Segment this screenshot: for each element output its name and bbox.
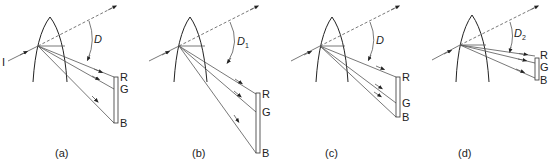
undeviated-ray	[179, 6, 258, 46]
deviation-arc	[88, 21, 92, 59]
green-ray	[320, 46, 396, 103]
incident-ray	[291, 46, 320, 61]
blue-ray	[320, 46, 396, 117]
arrow-icon	[94, 69, 101, 72]
caption: (c)	[325, 147, 338, 159]
arrow-icon	[376, 66, 383, 69]
panel-b: D1 R G B (b)	[149, 6, 271, 159]
arrow-icon	[518, 59, 525, 61]
red-ray	[320, 46, 396, 77]
arrow-icon	[374, 92, 380, 96]
green-ray	[38, 46, 114, 89]
undeviated-ray	[38, 6, 116, 46]
label-g: G	[540, 61, 549, 73]
prism	[33, 17, 67, 82]
label-r: R	[262, 88, 270, 100]
green-ray	[179, 46, 256, 112]
label-r: R	[402, 71, 410, 83]
panel-c: D R G B (c)	[291, 6, 411, 159]
panel-a: I D R G B (a)	[2, 6, 129, 159]
caption: (d)	[458, 147, 471, 159]
blue-ray	[179, 46, 256, 153]
deviation-label: D	[376, 34, 384, 46]
incident-ray	[432, 45, 460, 60]
label-g: G	[402, 97, 411, 109]
undeviated-ray	[320, 6, 399, 46]
deviation-arc	[228, 22, 235, 62]
arrow-icon	[391, 7, 398, 11]
panel-d: D2 R G B (d)	[432, 6, 549, 159]
arrow-icon	[510, 47, 511, 51]
incident-ray	[149, 46, 179, 61]
deviation-label: D1	[237, 35, 249, 49]
arrow-icon	[108, 7, 115, 11]
arrow-icon	[250, 7, 257, 11]
red-ray	[179, 46, 256, 94]
blue-ray	[460, 45, 535, 78]
arrow-icon	[375, 84, 381, 88]
label-b: B	[120, 117, 127, 129]
incident-label: I	[2, 56, 5, 68]
label-g: G	[262, 106, 271, 118]
screen	[114, 77, 118, 123]
blue-ray	[38, 46, 114, 123]
arrow-icon	[234, 115, 238, 121]
arrow-icon	[530, 7, 537, 11]
screen	[396, 77, 400, 117]
arrow-icon	[369, 55, 371, 59]
prism-dispersion-diagram: I D R G B (a) D1	[0, 0, 551, 165]
prism	[316, 17, 348, 82]
label-b: B	[540, 74, 547, 86]
arrow-icon	[162, 52, 168, 55]
screen	[256, 93, 260, 153]
label-g: G	[120, 83, 129, 95]
caption: (a)	[55, 147, 68, 159]
prism	[174, 17, 207, 82]
arrow-icon	[92, 96, 97, 101]
red-ray	[38, 46, 114, 77]
deviation-arc	[510, 22, 513, 50]
arrow-icon	[444, 51, 450, 54]
label-b: B	[262, 147, 269, 159]
deviation-label: D	[94, 33, 102, 45]
arrow-icon	[20, 52, 26, 55]
screen	[535, 58, 539, 80]
label-b: B	[402, 111, 409, 123]
caption: (b)	[192, 147, 205, 159]
arrow-icon	[519, 54, 526, 55]
undeviated-ray	[460, 6, 538, 45]
label-r: R	[120, 71, 128, 83]
deviation-arc	[369, 22, 374, 59]
deviation-label: D2	[514, 27, 526, 41]
label-r: R	[540, 49, 548, 61]
